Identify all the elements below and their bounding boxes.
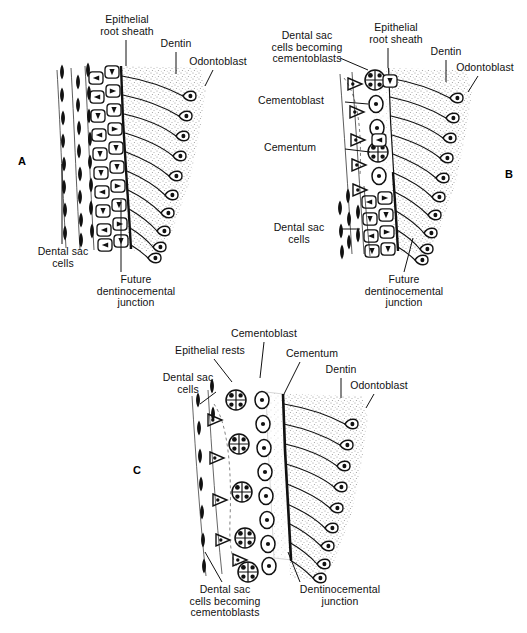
label-future-dentinocemental-junction-b: Future dentinocemental junction bbox=[344, 274, 464, 309]
label-cementoblast-b: Cementoblast bbox=[258, 95, 358, 107]
label-cementum-c: Cementum bbox=[268, 348, 356, 360]
label-dentin-c: Dentin bbox=[312, 364, 370, 376]
panel-letter-a: A bbox=[18, 155, 26, 167]
label-dentin-b: Dentin bbox=[418, 46, 474, 58]
label-cementum-b: Cementum bbox=[264, 142, 356, 154]
label-dental-sac-cells-becoming-cementoblasts-b: Dental sac cells becoming cementoblasts bbox=[255, 30, 359, 65]
panel-letter-c: C bbox=[133, 464, 141, 476]
label-epithelial-rests-c: Epithelial rests bbox=[155, 345, 265, 357]
label-odontoblast-a: Odontoblast bbox=[173, 56, 263, 68]
label-cementoblast-c: Cementoblast bbox=[214, 328, 314, 340]
label-dentinocemental-junction-c: Dentinocemental junction bbox=[281, 584, 399, 607]
label-future-dentinocemental-junction-a: Future dentinocemental junction bbox=[76, 274, 196, 309]
label-odontoblast-c: Odontoblast bbox=[336, 380, 422, 392]
label-dental-sac-cells-a: Dental sac cells bbox=[18, 246, 108, 269]
label-odontoblast-b: Odontoblast bbox=[443, 62, 527, 74]
cementogenesis-figure: A B C Epithelial root sheath Dentin Odon… bbox=[0, 0, 527, 633]
panel-letter-b: B bbox=[505, 168, 513, 180]
label-dental-sac-cells-becoming-cementoblasts-c: Dental sac cells becoming cementoblasts bbox=[169, 584, 281, 619]
label-epithelial-root-sheath-b: Epithelial root sheath bbox=[345, 22, 447, 45]
label-dental-sac-cells-c: Dental sac cells bbox=[144, 372, 232, 395]
label-epithelial-root-sheath-a: Epithelial root sheath bbox=[72, 14, 182, 37]
label-dental-sac-cells-b: Dental sac cells bbox=[253, 222, 345, 245]
label-dentin-a: Dentin bbox=[146, 38, 206, 50]
